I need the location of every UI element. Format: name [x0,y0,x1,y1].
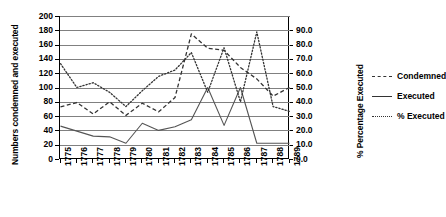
x-axis-tick-mark [174,159,175,163]
series-line-1 [61,88,290,144]
y-axis-left-tick-label: 160 [23,40,53,49]
x-axis-tick-mark [207,159,208,163]
y-axis-right-tick-label: 20.0 [296,126,313,135]
y-axis-left-tick-label: 20 [23,140,53,149]
x-axis-tick-mark [256,159,257,163]
x-axis-tick-mark [190,159,191,163]
legend-item-label: Condemned [397,71,446,81]
series-line-2 [61,32,290,111]
x-axis-tick-mark [223,159,224,163]
x-axis-tick-mark [141,159,142,163]
solid-line-key [372,92,392,101]
y-axis-left-tick-label: 200 [23,12,53,21]
y-axis-right-tick-label: 30.0 [296,112,313,121]
y-axis-left-tick-label: 80 [23,97,53,106]
x-axis-tick-mark [92,159,93,163]
y-axis-left-tick-label: 100 [23,83,53,92]
x-axis-tick-label: 1789 [293,147,302,166]
series-line-0 [61,34,290,116]
chart-legend: CondemnedExecuted% Executed [372,66,446,126]
y-axis-right-tick-label: 40.0 [296,97,313,106]
y-axis-left-tick-label: 0 [23,155,53,164]
y-axis-left-tick-label: 40 [23,126,53,135]
plot-svg [60,16,290,159]
y-axis-left-tick-label: 120 [23,69,53,78]
y-axis-left-tick-label: 180 [23,26,53,35]
plot-area [59,16,289,159]
y-axis-right-tick-label: 90.0 [296,26,313,35]
dashed-line-key [372,72,392,81]
legend-item-label: % Executed [397,111,445,121]
y-axis-left-tick-label: 60 [23,112,53,121]
legend-item-condemned[interactable]: Condemned [372,66,446,86]
x-axis-tick-mark [125,159,126,163]
x-axis-tick-mark [109,159,110,163]
x-axis-tick-mark [60,159,61,163]
y-axis-left-tick-label: 140 [23,54,53,63]
x-axis-tick-mark [76,159,77,163]
y-axis-left-tick-mark [55,159,59,160]
y-axis-right-tick-label: 60.0 [296,69,313,78]
legend-item-label: Executed [397,91,435,101]
x-axis-tick-mark [289,159,290,163]
y-axis-right-tick-label: 70.0 [296,54,313,63]
x-axis-tick-mark [158,159,159,163]
x-axis-tick-mark [239,159,240,163]
y-axis-left-title: Numbers condemned and executed [10,24,20,165]
legend-item-executed[interactable]: % Executed [372,106,446,126]
x-axis-tick-mark [272,159,273,163]
dotted-line-key [372,112,392,121]
legend-item-executed[interactable]: Executed [372,86,446,106]
y-axis-right-title: % Percentage Executed [355,64,365,158]
y-axis-right-tick-label: 80.0 [296,40,313,49]
y-axis-right-tick-label: 50.0 [296,83,313,92]
